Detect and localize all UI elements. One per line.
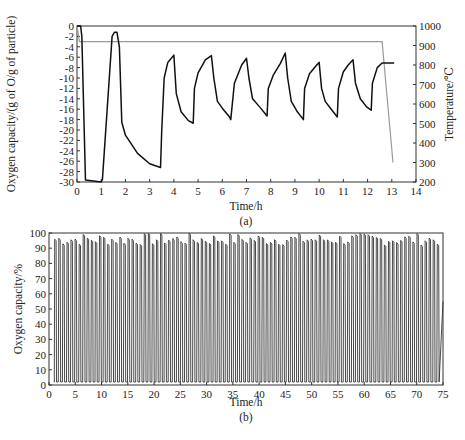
svg-text:30: 30 xyxy=(201,388,213,400)
y2-axis-label-a: Temperature/℃ xyxy=(443,67,456,141)
svg-text:900: 900 xyxy=(419,40,436,52)
svg-text:10: 10 xyxy=(35,364,47,376)
svg-text:8: 8 xyxy=(268,185,274,197)
svg-text:60: 60 xyxy=(35,288,47,300)
x-axis-label-a: Time/h xyxy=(230,200,263,212)
svg-text:5: 5 xyxy=(73,388,79,400)
svg-text:80: 80 xyxy=(35,257,47,269)
svg-text:4: 4 xyxy=(171,185,177,197)
svg-text:75: 75 xyxy=(438,388,450,400)
svg-text:20: 20 xyxy=(149,388,161,400)
svg-text:40: 40 xyxy=(35,318,47,330)
caption-b: (b) xyxy=(239,411,253,424)
svg-text:25: 25 xyxy=(175,388,187,400)
y2-axis-ticks-a: 1000900800700600500400300200 xyxy=(413,20,442,188)
svg-text:800: 800 xyxy=(419,59,436,71)
svg-text:-30: -30 xyxy=(59,176,74,188)
svg-text:2: 2 xyxy=(123,185,129,197)
svg-text:70: 70 xyxy=(411,388,423,400)
svg-text:55: 55 xyxy=(332,388,344,400)
svg-text:1: 1 xyxy=(98,185,104,197)
y-axis-label-b: Oxygen capacity/% xyxy=(12,263,25,354)
svg-text:7: 7 xyxy=(244,185,250,197)
x-axis-label-b: Time/h xyxy=(230,396,263,408)
svg-text:90: 90 xyxy=(35,242,47,254)
svg-text:400: 400 xyxy=(419,137,436,149)
panel-b-chart: 0102030405060708090100 05101520253035404… xyxy=(12,227,449,424)
svg-text:13: 13 xyxy=(386,185,398,197)
temperature-line xyxy=(77,26,393,163)
svg-text:300: 300 xyxy=(419,157,436,169)
figure: 0-2-4-6-8-10-12-14-16-18-20-22-24-26-28-… xyxy=(0,0,465,440)
svg-text:9: 9 xyxy=(292,185,298,197)
svg-text:20: 20 xyxy=(35,349,47,361)
svg-text:45: 45 xyxy=(280,388,292,400)
svg-text:700: 700 xyxy=(419,79,436,91)
oxygen-capacity-line xyxy=(77,26,394,182)
svg-text:500: 500 xyxy=(419,118,436,130)
svg-text:1000: 1000 xyxy=(419,20,442,32)
svg-text:50: 50 xyxy=(306,388,318,400)
svg-text:100: 100 xyxy=(30,227,47,239)
svg-text:5: 5 xyxy=(195,185,201,197)
svg-text:14: 14 xyxy=(411,185,423,197)
svg-text:0: 0 xyxy=(74,185,80,197)
svg-text:30: 30 xyxy=(35,333,47,345)
svg-text:65: 65 xyxy=(385,388,397,400)
svg-text:600: 600 xyxy=(419,98,436,110)
svg-text:3: 3 xyxy=(147,185,153,197)
svg-text:0: 0 xyxy=(46,388,52,400)
svg-text:50: 50 xyxy=(35,303,47,315)
svg-text:60: 60 xyxy=(359,388,371,400)
svg-text:70: 70 xyxy=(35,273,47,285)
svg-text:15: 15 xyxy=(122,388,134,400)
svg-text:11: 11 xyxy=(338,185,349,197)
oxygen-capacity-cycles-line xyxy=(54,233,443,382)
caption-a: (a) xyxy=(240,215,253,228)
panel-a-chart: 0-2-4-6-8-10-12-14-16-18-20-22-24-26-28-… xyxy=(5,16,456,228)
svg-text:10: 10 xyxy=(96,388,108,400)
svg-text:200: 200 xyxy=(419,176,436,188)
svg-text:12: 12 xyxy=(362,185,373,197)
y-axis-label-a: Oxygen capacity/(g of O/g of particle) xyxy=(5,16,18,193)
svg-text:10: 10 xyxy=(314,185,326,197)
svg-text:6: 6 xyxy=(220,185,226,197)
